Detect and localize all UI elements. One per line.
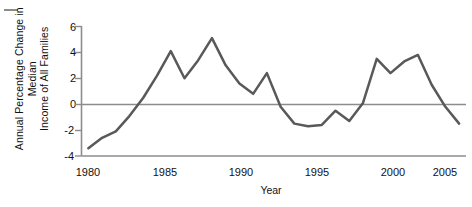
chart-figure: Annual Percentage Change in Median Incom… <box>0 0 472 207</box>
data-series-line <box>88 38 459 148</box>
y-tick-marks <box>75 27 82 157</box>
axes-group <box>75 26 466 156</box>
plot-area <box>0 0 472 207</box>
